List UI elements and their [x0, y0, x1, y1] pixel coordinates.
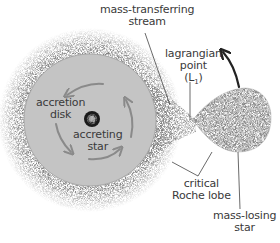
leader-losing-star: [238, 152, 240, 209]
label-mass-transferring-stream: mass-transferring stream: [100, 4, 194, 28]
diagram-graphics: [0, 0, 280, 243]
label-accretion-disk: accretion disk: [36, 97, 85, 121]
orbit-direction-arrow-icon: [223, 52, 239, 87]
label-accreting-star: accreting star: [73, 129, 122, 153]
accreting-star-icon: [84, 111, 100, 127]
leader-roche: [172, 152, 212, 176]
binary-accretion-diagram: mass-transferring stream lagrangian poin…: [0, 0, 280, 243]
label-critical-roche-lobe: critical Roche lobe: [172, 178, 231, 202]
label-lagrangian-point: lagrangian point (L1): [165, 48, 222, 88]
label-mass-losing-star: mass-losing star: [213, 210, 276, 234]
mass-losing-star-shape: [193, 88, 271, 152]
